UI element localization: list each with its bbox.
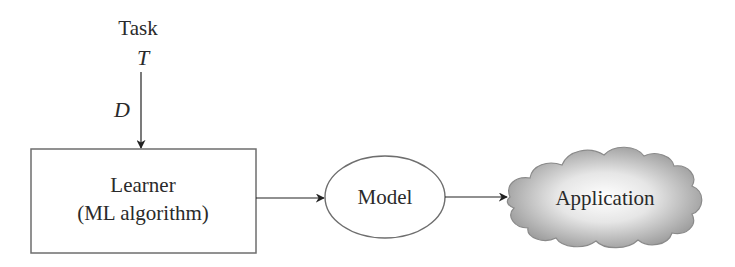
learner-title: Learner	[110, 173, 175, 197]
application-label: Application	[555, 186, 655, 210]
model-node: Model	[325, 156, 445, 238]
learner-subtitle: (ML algorithm)	[77, 201, 209, 225]
ml-pipeline-diagram: Task T D Learner (ML algorithm) Model Ap…	[0, 0, 735, 267]
application-node: Application	[507, 147, 701, 247]
model-label: Model	[358, 185, 413, 209]
task-symbol: T	[137, 45, 151, 70]
learner-node: Learner (ML algorithm)	[31, 149, 256, 253]
task-label: Task	[118, 16, 158, 40]
data-edge-label: D	[113, 97, 130, 122]
